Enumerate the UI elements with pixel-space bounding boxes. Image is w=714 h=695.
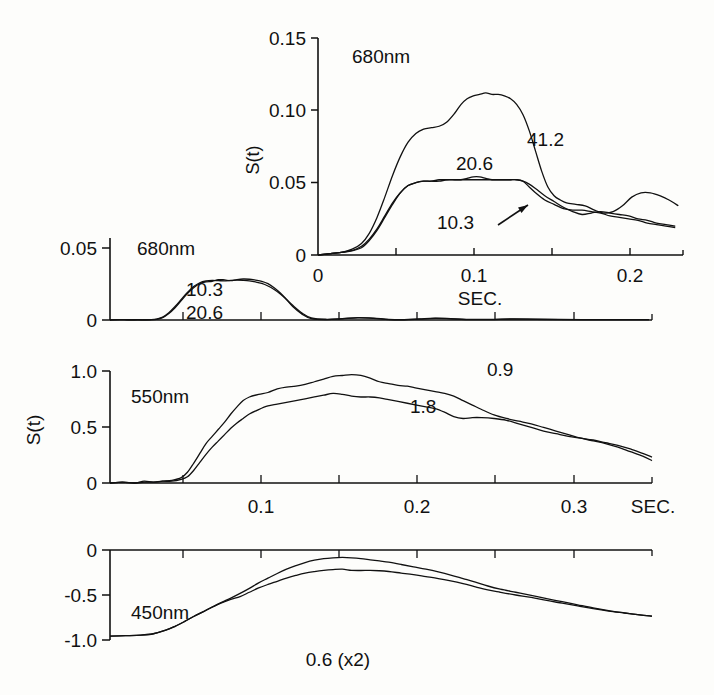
- p680-y-ticks: [102, 248, 110, 320]
- p550-x-ticks: [183, 475, 652, 483]
- p550-annotation-0.9: 0.9: [487, 359, 513, 380]
- p550-ytick-label-1: 0.5: [71, 417, 97, 438]
- inset-annotation-10.3: 10.3: [437, 212, 474, 233]
- inset-annotation-arrowhead-icon: [518, 205, 528, 213]
- inset-curve-41.2: [318, 93, 678, 255]
- p550-xtick-label-0.1: 0.1: [248, 496, 274, 517]
- p450-panel-label-450nm: 450nm: [131, 602, 189, 623]
- p680-panel-label-680nm: 680nm: [137, 238, 195, 259]
- p450-ytick-label-m10: -1.0: [64, 630, 97, 651]
- p550-curve-0.9: [110, 375, 652, 483]
- p550-y-ticks: [102, 371, 110, 483]
- p680-ytick-label-0: 0: [86, 310, 97, 331]
- p450-x-ticks: [183, 550, 652, 558]
- p450-curve-upper: [110, 569, 652, 636]
- p450-ytick-label-0: 0: [86, 540, 97, 561]
- inset-x-ticks: [396, 248, 683, 255]
- inset-ytick-label-1: 0.05: [269, 172, 306, 193]
- p450-curve-lower: [110, 557, 652, 636]
- inset-panel-label-680nm: 680nm: [352, 46, 410, 67]
- panel-680: 0.05 0 680nm 10.3 20.6: [60, 238, 652, 331]
- p550-ytick-label-0: 0: [86, 473, 97, 494]
- figure-root: 0.15 0.10 0.05 0 S(t) 0 0.1 0.2 SEC. 680…: [0, 0, 714, 695]
- inset-xtick-label-2: 0.1: [461, 265, 487, 286]
- inset-ytick-label-0: 0: [295, 245, 306, 266]
- p550-y-axis-title: S(t): [23, 415, 44, 446]
- inset-y-ticks: [311, 38, 318, 255]
- p550-curve-1.8: [110, 393, 652, 483]
- p680-annotation-20.6: 20.6: [186, 302, 223, 323]
- p550-xtick-label-0.3: 0.3: [561, 496, 587, 517]
- inset-annotation-41.2: 41.2: [527, 129, 564, 150]
- inset-x-axis-title: SEC.: [458, 288, 502, 309]
- p680-ytick-label-1: 0.05: [60, 238, 97, 259]
- panel-450: 0 -0.5 -1.0 450nm 0.6 (x2): [64, 540, 652, 670]
- p550-annotation-1.8: 1.8: [410, 396, 436, 417]
- p450-y-ticks: [102, 550, 110, 640]
- inset-ytick-label-3: 0.15: [269, 28, 306, 49]
- p550-xtick-label-0.2: 0.2: [404, 496, 430, 517]
- p450-annotation-0.6x2: 0.6 (x2): [306, 649, 370, 670]
- inset-y-axis-title: S(t): [243, 146, 263, 175]
- p550-ytick-label-2: 1.0: [71, 361, 97, 382]
- p450-ytick-label-m05: -0.5: [64, 585, 97, 606]
- panel-550: 1.0 0.5 0 S(t) 0.1 0.2 0.3 SEC. 550nm 0.…: [23, 359, 675, 517]
- inset-curve-20.6: [318, 177, 675, 255]
- inset-xtick-label-4: 0.2: [617, 265, 643, 286]
- inset-ytick-label-2: 0.10: [269, 100, 306, 121]
- inset-annotation-20.6: 20.6: [456, 153, 493, 174]
- inset-curve-10.3: [318, 180, 675, 255]
- inset-xtick-label-0: 0: [313, 265, 324, 286]
- p680-annotation-10.3: 10.3: [186, 279, 223, 300]
- panel-inset-680: 0.15 0.10 0.05 0 S(t) 0 0.1 0.2 SEC. 680…: [243, 28, 683, 309]
- p550-x-axis-title: SEC.: [631, 496, 675, 517]
- p550-panel-label-550nm: 550nm: [131, 386, 189, 407]
